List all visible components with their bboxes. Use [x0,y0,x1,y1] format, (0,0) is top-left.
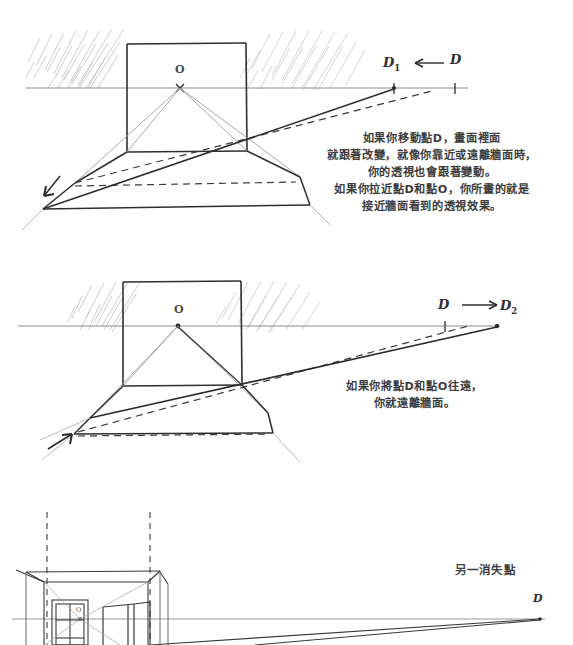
drawing-canvas [0,0,573,645]
wall-rectangle-panel1 [127,43,247,152]
perspective-rays-dark-panel2 [178,327,242,385]
extension-lines-panel2 [40,418,300,462]
point-d-dot-panel3 [538,617,542,621]
hatching-right-panel1 [240,31,365,90]
floor-plane-panel2 [74,385,273,434]
arrow-downleft-panel1 [44,176,60,196]
point-d1-dot [392,86,396,90]
ceiling-plane-panel3 [16,570,168,584]
back-wall-panel3 [44,582,148,645]
arrow-upright-panel2 [48,434,72,449]
distance-line-panel1 [43,89,394,209]
floor-plane-panel1 [43,151,310,209]
point-d2-dot [495,324,499,328]
hatching-left-panel1 [26,29,124,88]
hatching-left-panel2 [68,282,140,332]
sketch-sheet: O D1 D 如果你移動點D，畫面裡面 就跟著改變，就像你靠近或遠離牆面時， 你… [0,0,573,645]
dashed-construction-panel2 [78,325,472,436]
panel-3-drawing [12,512,545,645]
arrow-left-panel1 [415,59,444,67]
panel-1-drawing [22,29,468,230]
distance-line-panel2 [90,327,497,418]
convergence-line-panel3 [150,619,540,645]
arrow-right-panel2 [462,301,497,309]
hatching-right-panel2 [216,281,320,333]
perspective-rays-panel1 [75,88,300,183]
window-panel3 [52,600,88,645]
perspective-rays-panel3 [44,582,148,645]
dashed-construction-panel1 [75,91,432,186]
panel-2-drawing [18,281,500,462]
